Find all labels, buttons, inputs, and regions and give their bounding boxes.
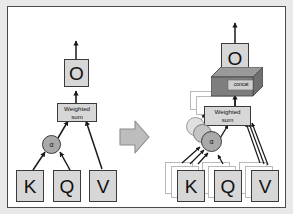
left-output-box: O — [64, 59, 89, 87]
left-input-box-k: K — [16, 170, 44, 202]
right-weighted-sum-line1: Weighted — [214, 108, 240, 116]
left-weighted-sum-line2: sum — [71, 113, 83, 121]
left-input-box-v: V — [89, 170, 117, 202]
left-attention-label: α — [49, 141, 53, 148]
right-weighted-sum-line2: sum — [222, 116, 234, 124]
right-input-box-k: K — [177, 170, 205, 202]
right-attention-label: α — [209, 138, 213, 145]
right-weighted-sum-box: Weighted sum — [204, 106, 251, 126]
right-attention-node: α — [201, 131, 222, 152]
left-input-label-v: V — [97, 177, 110, 196]
right-input-label-k: K — [185, 177, 198, 196]
right-input-label-q: Q — [221, 177, 236, 196]
transition-arrow — [118, 119, 151, 155]
diagram-canvas: O Weighted sum α K Q V — [7, 6, 286, 208]
left-attention-node: α — [42, 135, 61, 154]
right-input-label-v: V — [259, 177, 272, 196]
concat-box: concat — [211, 67, 263, 97]
left-input-label-k: K — [24, 177, 37, 196]
left-weighted-sum-box: Weighted sum — [57, 103, 97, 122]
right-output-label: O — [228, 49, 243, 68]
left-input-box-q: Q — [53, 170, 81, 202]
left-output-label: O — [69, 64, 84, 83]
left-input-label-q: Q — [60, 177, 75, 196]
concat-label: concat — [229, 81, 253, 87]
right-input-box-v: V — [251, 170, 279, 202]
right-input-box-q: Q — [214, 170, 242, 202]
left-weighted-sum-line1: Weighted — [64, 105, 90, 113]
